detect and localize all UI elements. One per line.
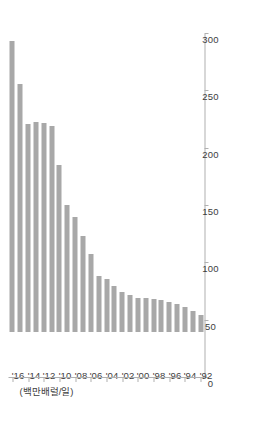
category-tick-label: '10 — [58, 370, 70, 381]
bar — [17, 84, 22, 332]
category-tick-label: '92 — [199, 370, 211, 381]
rotated-figure: (백만배럴/일) 050100150200250300 '92'94'96'98… — [0, 0, 259, 424]
category-tick-label: '06 — [90, 370, 102, 381]
bar — [151, 299, 156, 332]
bar — [119, 292, 124, 332]
chart-screenshot: (백만배럴/일) 050100150200250300 '92'94'96'98… — [0, 0, 259, 424]
category-tick-label: '98 — [152, 370, 164, 381]
category-axis-line — [8, 377, 204, 378]
bar — [41, 123, 46, 332]
bar — [56, 165, 61, 332]
bar — [96, 276, 101, 332]
bar — [72, 217, 77, 332]
value-tick-label: 150 — [202, 206, 218, 217]
value-tick-label: 50 — [205, 321, 216, 332]
bar — [25, 124, 30, 332]
bar — [104, 279, 109, 332]
bar — [190, 311, 195, 332]
bar — [143, 298, 148, 332]
category-tick-label: '08 — [74, 370, 86, 381]
value-tick-label: 300 — [202, 34, 218, 45]
category-tick-label: '14 — [27, 370, 39, 381]
bar — [88, 254, 93, 332]
value-tick-label: 200 — [202, 149, 218, 160]
bar — [166, 302, 171, 332]
bar — [198, 315, 203, 332]
category-tick-label: '00 — [137, 370, 149, 381]
value-tick-label: 100 — [202, 263, 218, 274]
bar — [111, 286, 116, 332]
category-tick-label: '16 — [11, 370, 23, 381]
category-tick-label: '94 — [184, 370, 196, 381]
bar — [158, 300, 163, 332]
axis-unit-label: (백만배럴/일) — [19, 384, 73, 398]
bar — [127, 295, 132, 332]
bar — [182, 307, 187, 332]
category-tick-label: '02 — [121, 370, 133, 381]
category-tick-label: '12 — [43, 370, 55, 381]
bar — [135, 298, 140, 332]
plot-area — [8, 34, 204, 378]
value-tick-label: 250 — [202, 91, 218, 102]
bar — [174, 304, 179, 332]
bar — [9, 41, 14, 332]
bar — [80, 236, 85, 332]
bar — [33, 122, 38, 332]
category-tick-label: '96 — [168, 370, 180, 381]
category-tick-label: '04 — [105, 370, 117, 381]
bar — [64, 205, 69, 332]
bar — [49, 126, 54, 332]
